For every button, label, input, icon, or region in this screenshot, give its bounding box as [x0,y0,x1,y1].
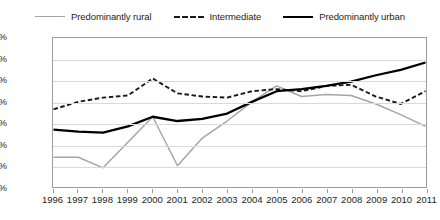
legend-item-intermediate[interactable]: Intermediate [174,11,262,22]
y-axis-tick-label: 0.0% [0,140,7,150]
x-axis-tick [102,189,103,193]
y-axis-tick-label: 0.4% [0,97,7,107]
series-line-predominantly-rural [53,86,425,168]
series-line-intermediate [53,78,425,109]
legend-label-urban: Predominantly urban [319,11,405,22]
y-axis-tick-label: 0.8% [0,54,7,64]
x-axis-tick [427,189,428,193]
gridline [53,60,426,61]
y-axis-tick-label: 0.6% [0,75,7,85]
x-axis-tick [77,189,78,193]
line-chart: Predominantly rural Intermediate Predomi… [0,0,440,220]
x-axis-tick-label: 2008 [341,194,362,205]
x-axis-tick-label: 2009 [366,194,387,205]
gridline [53,103,426,104]
x-axis-tick [53,189,54,193]
x-axis-tick-label: 2001 [167,194,188,205]
y-axis-tick-label: 1.0% [0,32,7,42]
x-axis-tick-label: 2011 [416,194,436,205]
x-axis-tick-label: 2003 [216,194,237,205]
gridline [53,81,426,82]
x-axis-tick-label: 2005 [266,194,287,205]
x-axis-tick [152,189,153,193]
x-axis-tick-label: 2007 [316,194,337,205]
x-axis-tick [277,189,278,193]
x-axis-tick [127,189,128,193]
legend-swatch-urban-icon [283,12,313,21]
x-axis: 1996199719981999200020012002200320042005… [52,189,427,217]
legend-swatch-intermediate-icon [174,12,204,21]
gridline [53,124,426,125]
x-axis-tick-label: 2006 [291,194,312,205]
x-axis-tick-label: 1997 [67,194,88,205]
x-axis-tick [327,189,328,193]
legend-label-rural: Predominantly rural [71,11,151,22]
x-axis-tick [202,189,203,193]
y-axis-tick-label: -0.4% [0,183,7,193]
gridline [53,146,426,147]
legend-item-rural[interactable]: Predominantly rural [35,11,151,22]
y-axis-tick-label: -0.2% [0,161,7,171]
x-axis-tick-label: 2010 [391,194,412,205]
plot-area [52,37,427,188]
x-axis-tick [377,189,378,193]
x-axis-tick-label: 1998 [92,194,113,205]
legend-label-intermediate: Intermediate [210,11,262,22]
x-axis-tick-label: 2002 [192,194,213,205]
x-axis-tick [302,189,303,193]
y-axis-tick-label: 0.2% [0,118,7,128]
x-axis-tick-label: 1999 [117,194,138,205]
x-axis-tick-label: 2004 [241,194,262,205]
x-axis-tick [252,189,253,193]
x-axis-tick [227,189,228,193]
x-axis-tick [352,189,353,193]
x-axis-tick-label: 2000 [142,194,163,205]
x-axis-tick [177,189,178,193]
legend-swatch-rural-icon [35,12,65,21]
x-axis-tick [402,189,403,193]
chart-legend: Predominantly rural Intermediate Predomi… [0,6,440,26]
x-axis-tick-label: 1996 [42,194,63,205]
legend-item-urban[interactable]: Predominantly urban [283,11,405,22]
gridline [53,167,426,168]
